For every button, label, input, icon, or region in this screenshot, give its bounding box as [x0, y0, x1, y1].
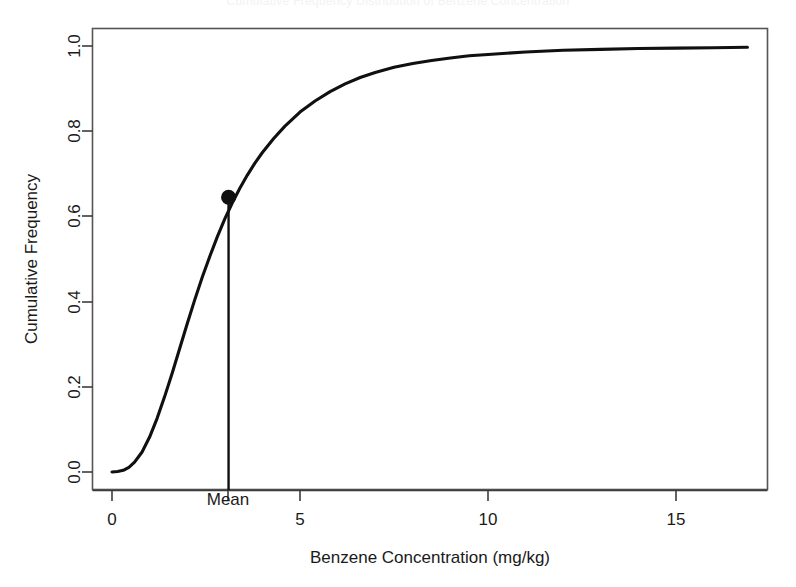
y-axis-title: Cumulative Frequency [22, 173, 41, 344]
x-tick-label-5: 5 [295, 510, 304, 529]
figure-container: Cumulative Frequency Distribution of Ben… [0, 0, 796, 587]
x-tick-label-15: 15 [667, 510, 686, 529]
x-axis-tick-labels: 0 5 10 15 [107, 510, 685, 529]
y-axis-tick-labels: 1.0 0.8 0.6 0.4 0.2 0.0 [65, 34, 84, 484]
y-tick-label-0.0: 0.0 [65, 460, 84, 484]
cumulative-frequency-curve [112, 47, 747, 472]
y-axis-ticks [82, 46, 93, 472]
mean-point-marker [221, 190, 236, 205]
y-tick-label-0.6: 0.6 [65, 204, 84, 228]
plot-box-frame [93, 29, 768, 490]
y-tick-label-0.4: 0.4 [65, 290, 84, 314]
cumulative-frequency-chart: 1.0 0.8 0.6 0.4 0.2 0.0 Cumulative Frequ… [0, 0, 796, 587]
x-axis-ticks [112, 491, 676, 502]
mean-tick-label: Mean [207, 490, 250, 509]
x-tick-label-10: 10 [479, 510, 498, 529]
y-tick-label-0.8: 0.8 [65, 119, 84, 143]
x-axis-title: Benzene Concentration (mg/kg) [310, 548, 550, 567]
y-tick-label-1.0: 1.0 [65, 34, 84, 58]
x-tick-label-0: 0 [107, 510, 116, 529]
y-tick-label-0.2: 0.2 [65, 375, 84, 399]
plot-data-layer [112, 47, 747, 490]
